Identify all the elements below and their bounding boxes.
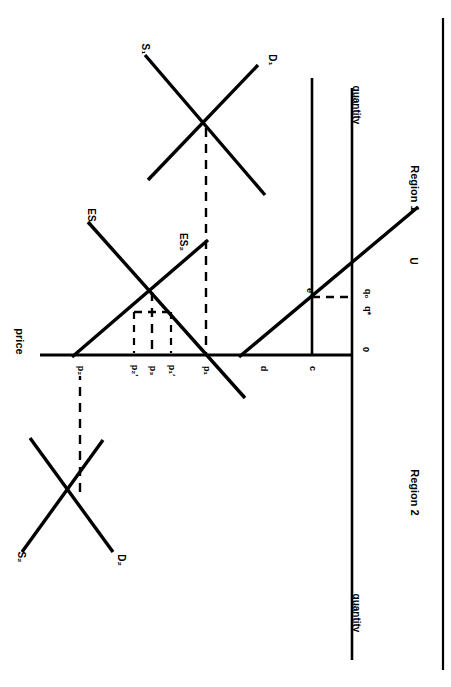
curve-label-es1-text: ES₁: [86, 208, 97, 225]
point-label-e-text: e: [305, 288, 315, 293]
price-axis-label: price: [14, 325, 25, 359]
quantity-axis-label-top: quantity: [351, 82, 361, 128]
price-tick-p1prime: p₁′: [167, 361, 176, 381]
curve-label-es2: ES₂: [178, 228, 188, 256]
excess-supply-curve-es2: [72, 240, 208, 357]
price-tick-p2-text: p₂: [76, 366, 86, 376]
curve-label-s1: S₁: [140, 38, 150, 60]
curve-label-s2-text: S₂: [16, 551, 27, 562]
price-tick-p2prime-text: p₂′: [130, 365, 140, 377]
point-label-qstar-text: q*: [363, 306, 373, 315]
point-label-q0: q₀: [363, 284, 372, 304]
curve-label-d2-text: D₂: [116, 554, 127, 566]
price-tick-p3: p₃: [148, 361, 157, 381]
curve-label-u: U: [408, 253, 418, 269]
price-tick-p1-text: p₁: [202, 366, 212, 375]
point-label-c-text: c: [308, 366, 318, 371]
point-label-d: d: [259, 362, 268, 376]
point-label-e: e: [305, 284, 314, 298]
curve-label-s2: S₂: [16, 546, 26, 568]
price-tick-p2prime: p₂′: [130, 361, 139, 381]
diagram-canvas: [0, 0, 451, 687]
demand-curve-region1: [148, 65, 258, 180]
curve-label-s1-text: S₁: [140, 44, 151, 55]
transport-cost-line-u: [239, 207, 418, 357]
point-label-q0-text: q₀: [363, 289, 373, 299]
origin-label: 0: [361, 343, 370, 357]
price-tick-p3-text: p₃: [148, 366, 158, 376]
curve-label-d2: D₂: [116, 549, 126, 571]
point-label-qstar: q*: [363, 301, 372, 321]
figure-root: price quantity quantity Region 1 Region …: [0, 0, 451, 687]
region-label-1: Region 1: [409, 160, 420, 218]
price-tick-p1: p₁: [202, 361, 211, 381]
curve-label-d1: D₁: [267, 49, 277, 71]
demand-curve-region2: [30, 438, 113, 552]
curve-label-d1-text: D₁: [267, 54, 278, 65]
quantity-axis-label-bottom: quantity: [351, 590, 361, 636]
curve-label-es2-text: ES₂: [178, 233, 189, 251]
point-label-c: c: [308, 362, 317, 376]
curve-label-u-text: U: [408, 257, 419, 264]
price-tick-p2: p₂: [76, 361, 85, 381]
point-label-d-text: d: [259, 366, 269, 372]
region-label-2: Region 2: [409, 464, 420, 522]
supply-curve-region2: [22, 440, 103, 552]
curve-label-es1: ES₁: [86, 203, 96, 231]
price-tick-p1prime-text: p₁′: [167, 365, 177, 376]
